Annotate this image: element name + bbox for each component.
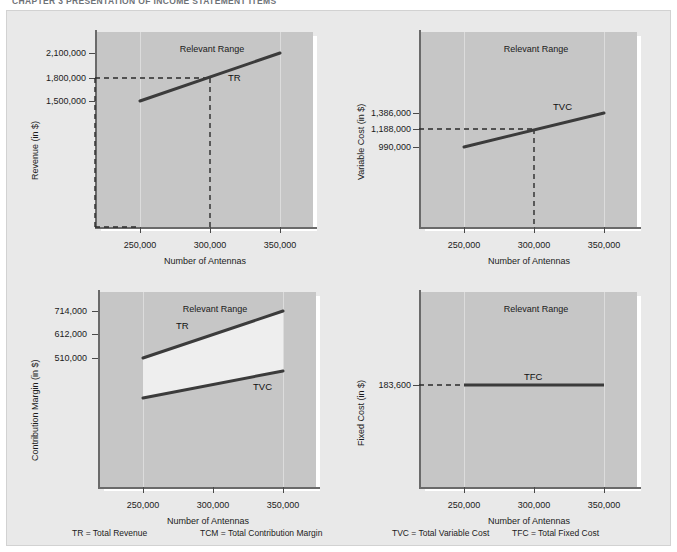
revenue-series-layer [0, 0, 338, 276]
chart-variable-cost: 1,386,000 1,188,000 990,000 250,000 300,… [338, 0, 677, 276]
legend-item-tr: TR = Total Revenue [72, 528, 147, 538]
chart-contribution-margin: 714,000 612,000 510,000 250,000 300,000 … [0, 276, 338, 552]
chart-fixed-cost: 183,600 250,000 300,000 350,000 Number o… [338, 276, 677, 552]
figure-page: CHAPTER 3 PRESENTATION OF INCOME STATEME… [0, 0, 677, 552]
fixed-cost-series-layer [338, 276, 677, 552]
series-line-tr [140, 53, 280, 101]
contribution-margin-series-layer [0, 276, 338, 552]
legend-item-tvc: TVC = Total Variable Cost [392, 528, 489, 538]
legend-item-tcm: TCM = Total Contribution Margin [200, 528, 322, 538]
legend-item-tfc: TFC = Total Fixed Cost [512, 528, 599, 538]
variable-cost-series-layer [338, 0, 677, 276]
chart-revenue: 2,100,000 1,800,000 1,500,000 250,000 30… [0, 0, 338, 276]
